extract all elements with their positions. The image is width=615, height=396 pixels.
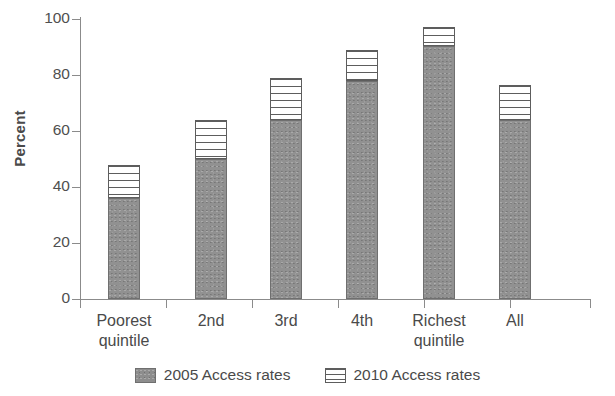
x-axis-tick — [590, 299, 591, 308]
y-axis-tick-labels: 100806040200 — [0, 0, 70, 396]
bar-segment-2005 — [270, 120, 302, 299]
y-axis-tick — [72, 19, 80, 20]
bar-segment-2005 — [108, 198, 140, 299]
bar-group — [108, 165, 140, 299]
category-label-line: All — [460, 311, 570, 331]
bar-group — [499, 85, 531, 299]
bar-group — [346, 50, 378, 299]
bar-group — [195, 120, 227, 299]
bar-segment-2005 — [346, 81, 378, 299]
y-axis-tick — [72, 243, 80, 244]
x-axis-tick — [424, 299, 425, 308]
x-axis-tick — [80, 299, 81, 308]
y-axis-tick-label: 100 — [24, 9, 70, 27]
y-axis-tick-label: 60 — [24, 121, 70, 139]
category-label-line: quintile — [69, 331, 179, 351]
bar-group — [270, 78, 302, 299]
x-axis-tick — [338, 299, 339, 308]
y-axis-tick — [72, 131, 80, 132]
legend-label: 2010 Access rates — [354, 366, 481, 384]
legend-item: 2010 Access rates — [325, 366, 481, 384]
y-axis-line — [80, 17, 81, 301]
x-axis-line — [79, 299, 591, 300]
legend-item: 2005 Access rates — [135, 366, 291, 384]
bar-segment-2005 — [499, 120, 531, 299]
category-label-line: quintile — [384, 331, 494, 351]
legend-label: 2005 Access rates — [164, 366, 291, 384]
x-axis-tick — [510, 299, 511, 308]
bar-segment-2010 — [499, 85, 531, 120]
bar-segment-2010 — [108, 165, 140, 199]
bar-segment-2010 — [346, 50, 378, 81]
bar-segment-2010 — [270, 78, 302, 120]
bar-segment-2005 — [423, 46, 455, 299]
y-axis-tick-label: 80 — [24, 65, 70, 83]
y-axis-tick-label: 20 — [24, 233, 70, 251]
x-axis-tick — [252, 299, 253, 308]
x-axis-tick — [166, 299, 167, 308]
chart-legend: 2005 Access rates2010 Access rates — [0, 366, 615, 384]
bar-segment-2010 — [195, 120, 227, 159]
y-axis-tick — [72, 75, 80, 76]
x-axis-category-label: All — [460, 311, 570, 331]
bar-segment-2005 — [195, 159, 227, 299]
bar-group — [423, 27, 455, 299]
stacked-bar-chart: Percent 100806040200 Poorestquintile2nd3… — [0, 0, 615, 396]
solid-gray-swatch — [135, 368, 156, 383]
y-axis-tick — [72, 299, 80, 300]
bar-segment-2010 — [423, 27, 455, 45]
y-axis-tick-label: 0 — [24, 289, 70, 307]
y-axis-tick-label: 40 — [24, 177, 70, 195]
hatched-swatch — [325, 368, 346, 383]
y-axis-tick — [72, 187, 80, 188]
